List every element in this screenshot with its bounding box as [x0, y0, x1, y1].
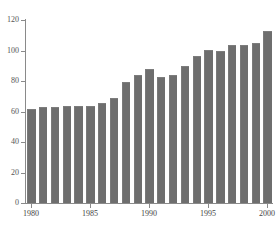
- x-axis-tick: [31, 204, 32, 208]
- bar: [98, 103, 106, 203]
- chart-figure: 020406080100120 19801985199019952000: [0, 0, 279, 251]
- y-axis-label: 80: [0, 77, 19, 85]
- x-axis-label: 1995: [193, 209, 223, 218]
- y-axis-label: 60: [0, 108, 19, 116]
- x-axis-label: 2000: [252, 209, 279, 218]
- bar: [216, 51, 224, 203]
- x-axis-label: 1985: [75, 209, 105, 218]
- x-axis-tick: [267, 204, 268, 208]
- bar: [157, 77, 165, 203]
- bar: [181, 66, 189, 203]
- y-axis-tick: [21, 203, 25, 204]
- y-axis-label: 40: [0, 138, 19, 146]
- plot-area: 020406080100120 19801985199019952000: [0, 0, 279, 251]
- x-axis-label: 1990: [134, 209, 164, 218]
- bar: [63, 106, 71, 203]
- bar: [204, 50, 212, 204]
- x-axis-tick: [90, 204, 91, 208]
- x-axis-tick: [208, 204, 209, 208]
- bar: [240, 45, 248, 203]
- y-axis-label: 120: [0, 16, 19, 24]
- x-axis-label: 1980: [16, 209, 46, 218]
- bar: [110, 98, 118, 203]
- bar: [169, 75, 177, 203]
- bar: [122, 82, 130, 203]
- bar: [252, 43, 260, 203]
- x-axis-tick: [149, 204, 150, 208]
- bar: [86, 106, 94, 203]
- bar: [27, 109, 35, 203]
- bar: [51, 107, 59, 203]
- bar: [228, 45, 236, 203]
- bar: [193, 56, 201, 203]
- bar-series: [25, 20, 273, 203]
- bar: [39, 107, 47, 203]
- bar: [263, 31, 271, 203]
- bar: [74, 106, 82, 203]
- y-axis-label: 20: [0, 169, 19, 177]
- y-axis-label: 100: [0, 47, 19, 55]
- y-axis-label: 0: [0, 199, 19, 207]
- bar: [145, 69, 153, 203]
- bar: [134, 75, 142, 203]
